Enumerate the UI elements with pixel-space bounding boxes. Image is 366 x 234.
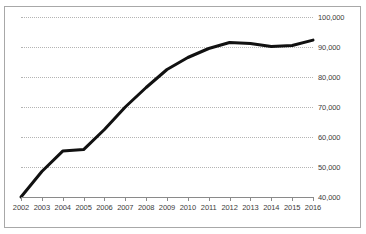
x-axis-tick (209, 197, 210, 201)
x-axis-tick-label: 2011 (201, 203, 217, 212)
x-axis-tick (250, 197, 251, 201)
x-axis-tick (188, 197, 189, 201)
chart-figure: 100,00090,00080,00070,00060,00050,00040,… (0, 0, 366, 234)
x-axis-tick (167, 197, 168, 201)
x-axis-tick (146, 197, 147, 201)
y-axis-tick-label: 90,000 (318, 43, 340, 52)
x-axis-tick (125, 197, 126, 201)
y-axis-tick-label: 70,000 (318, 103, 340, 112)
x-axis-tick-label: 2009 (159, 203, 175, 212)
y-axis-tick-label: 40,000 (318, 193, 340, 202)
x-axis-tick (104, 197, 105, 201)
x-axis-tick-label: 2014 (263, 203, 279, 212)
x-axis-tick-label: 2006 (96, 203, 112, 212)
x-axis-tick (84, 197, 85, 201)
x-axis-tick-label: 2004 (55, 203, 71, 212)
y-axis-tick-label: 50,000 (318, 163, 340, 172)
x-axis-tick-label: 2008 (138, 203, 154, 212)
x-axis-tick-label: 2003 (34, 203, 50, 212)
x-axis-tick (313, 197, 314, 201)
data-line-series-1 (21, 40, 313, 197)
x-axis-tick-label: 2012 (221, 203, 237, 212)
line-series-layer (21, 17, 313, 197)
x-axis-tick-label: 2005 (75, 203, 91, 212)
x-axis-tick-label: 2002 (13, 203, 29, 212)
x-axis-tick-label: 2016 (305, 203, 321, 212)
y-axis-tick-label: 100,000 (318, 13, 344, 22)
x-axis-tick-label: 2007 (117, 203, 133, 212)
y-axis-tick-label: 80,000 (318, 73, 340, 82)
x-axis-tick (63, 197, 64, 201)
x-axis-tick (230, 197, 231, 201)
x-axis-tick (21, 197, 22, 201)
x-axis-tick (42, 197, 43, 201)
x-axis-tick-label: 2015 (284, 203, 300, 212)
x-axis-tick-label: 2010 (180, 203, 196, 212)
x-axis-tick (271, 197, 272, 201)
x-axis-tick (292, 197, 293, 201)
x-axis-tick-label: 2013 (242, 203, 258, 212)
y-axis-tick-label: 60,000 (318, 133, 340, 142)
